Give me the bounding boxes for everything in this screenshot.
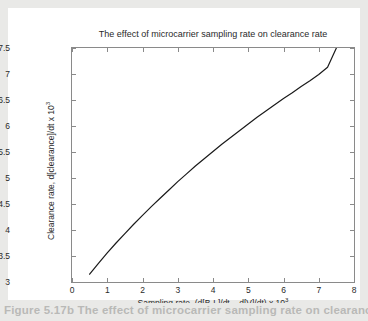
clearance-rate-curve	[72, 48, 354, 282]
y-tick-mark	[72, 74, 76, 75]
x-tick-mark	[354, 48, 355, 52]
x-tick-label: 6	[272, 285, 296, 295]
y-tick-mark	[72, 126, 76, 127]
x-tick-mark	[143, 48, 144, 52]
y-tick-mark	[350, 126, 354, 127]
y-tick-label: 3.5	[0, 251, 10, 261]
x-tick-mark	[213, 278, 214, 282]
x-tick-mark	[107, 48, 108, 52]
y-tick-mark	[72, 48, 76, 49]
x-tick-mark	[319, 278, 320, 282]
y-axis-label-exponent: 3	[44, 102, 51, 105]
x-tick-label: 7	[307, 285, 331, 295]
x-tick-label: 4	[201, 285, 225, 295]
y-tick-mark	[350, 152, 354, 153]
y-tick-mark	[350, 230, 354, 231]
x-tick-mark	[178, 278, 179, 282]
y-tick-label: 4.5	[0, 199, 10, 209]
x-tick-label: 8	[342, 285, 366, 295]
y-tick-mark	[350, 204, 354, 205]
y-tick-mark	[72, 230, 76, 231]
x-tick-mark	[178, 48, 179, 52]
figure-caption-strip: Figure 5.17b The effect of microcarrier …	[0, 303, 368, 321]
y-tick-mark	[72, 100, 76, 101]
chart-title: The effect of microcarrier sampling rate…	[71, 29, 355, 39]
y-tick-label: 7	[0, 69, 10, 79]
figure-panel: The effect of microcarrier sampling rate…	[8, 8, 360, 300]
y-tick-label: 5.5	[0, 147, 10, 157]
x-tick-label: 3	[166, 285, 190, 295]
y-tick-mark	[350, 48, 354, 49]
x-tick-mark	[143, 278, 144, 282]
x-tick-mark	[354, 278, 355, 282]
y-tick-mark	[350, 178, 354, 179]
x-tick-mark	[248, 278, 249, 282]
x-tick-mark	[213, 48, 214, 52]
x-tick-mark	[319, 48, 320, 52]
y-tick-mark	[72, 256, 76, 257]
y-tick-mark	[72, 152, 76, 153]
y-tick-label: 7.5	[0, 43, 10, 53]
y-tick-mark	[72, 178, 76, 179]
y-tick-label: 5	[0, 173, 10, 183]
y-tick-label: 4	[0, 225, 10, 235]
y-tick-mark	[350, 100, 354, 101]
y-axis-label-text: Clearance rate, d[clearance]/dt x 10	[46, 105, 56, 240]
y-tick-label: 6	[0, 121, 10, 131]
figure-caption: Figure 5.17b The effect of microcarrier …	[4, 304, 364, 316]
x-tick-label: 5	[236, 285, 260, 295]
y-tick-label: 6.5	[0, 95, 10, 105]
x-tick-mark	[284, 48, 285, 52]
x-tick-label: 1	[95, 285, 119, 295]
y-tick-mark	[72, 204, 76, 205]
y-tick-mark	[350, 74, 354, 75]
x-axis-label-exponent: 3	[285, 296, 288, 303]
x-tick-label: 2	[131, 285, 155, 295]
x-tick-mark	[107, 278, 108, 282]
x-tick-mark	[284, 278, 285, 282]
y-tick-mark	[72, 282, 76, 283]
y-axis-label: Clearance rate, d[clearance]/dt x 103	[44, 53, 56, 289]
y-tick-mark	[350, 256, 354, 257]
plot-area	[71, 47, 355, 283]
y-tick-mark	[350, 282, 354, 283]
x-tick-mark	[248, 48, 249, 52]
x-tick-label: 0	[60, 285, 84, 295]
y-tick-label: 3	[0, 277, 10, 287]
